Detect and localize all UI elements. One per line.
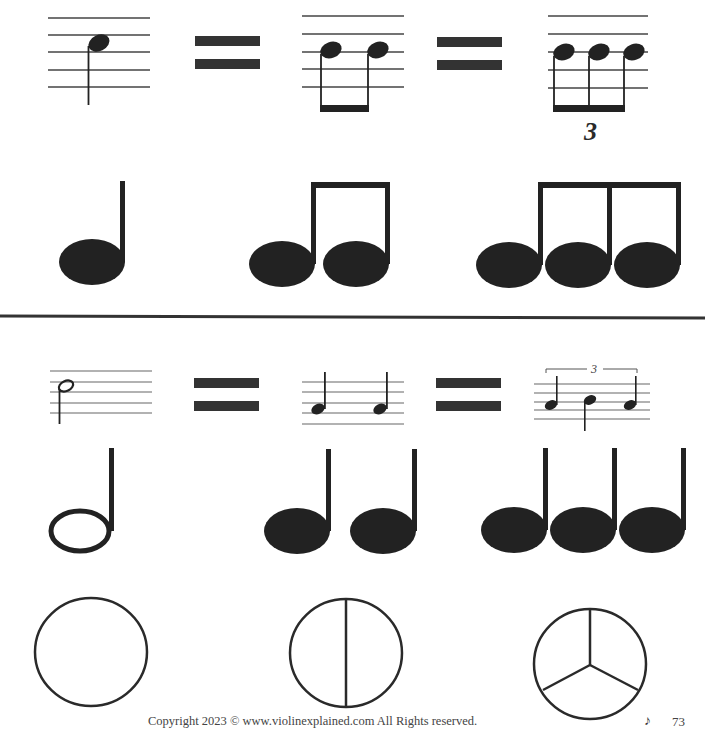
page-footer: Copyright 2023 © www.violinexplained.com… bbox=[0, 714, 705, 732]
equals-sign bbox=[436, 378, 501, 411]
equals-sign bbox=[195, 36, 260, 69]
large-quarter-note-icon bbox=[59, 181, 125, 285]
section-divider bbox=[0, 316, 705, 318]
tuplet-label: 3 bbox=[590, 362, 597, 376]
quarter-note-icon bbox=[86, 31, 113, 105]
copyright-text: Copyright 2023 © www.violinexplained.com… bbox=[148, 714, 477, 729]
eighth-note-icon: ♪ bbox=[644, 713, 651, 729]
circle-halves bbox=[290, 599, 402, 707]
half-note-icon bbox=[57, 378, 75, 424]
circle-thirds bbox=[534, 609, 646, 719]
music-rhythm-page: 3 bbox=[0, 0, 705, 732]
page-number: 73 bbox=[672, 714, 685, 730]
equals-sign bbox=[194, 378, 259, 411]
circle-whole bbox=[35, 598, 147, 706]
large-half-note-icon bbox=[51, 448, 114, 551]
eighth-triplet-icon bbox=[551, 41, 647, 112]
staff-quarter-note bbox=[48, 18, 150, 87]
large-three-beamed-eighths-icon bbox=[476, 182, 681, 288]
triplet-label: 3 bbox=[583, 117, 597, 146]
staff-two-quarter-notes bbox=[302, 382, 404, 424]
staff-two-eighth-notes bbox=[302, 16, 404, 87]
large-three-quarter-notes-icon bbox=[481, 448, 686, 553]
two-quarter-notes-icon bbox=[310, 372, 389, 416]
large-two-beamed-eighths-icon bbox=[249, 182, 390, 287]
equals-sign bbox=[437, 37, 502, 70]
large-two-quarter-notes-icon bbox=[264, 449, 417, 554]
beamed-eighth-notes-icon bbox=[318, 39, 391, 112]
